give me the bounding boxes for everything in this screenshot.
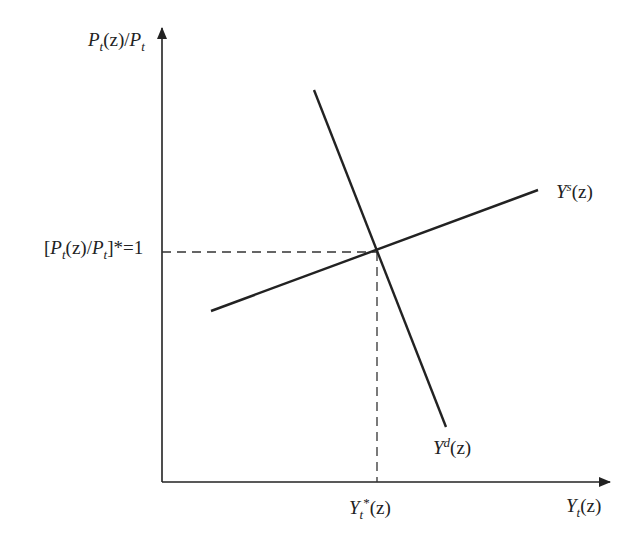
- eq-qty-rest: (z): [370, 497, 391, 518]
- y-label-base2: P: [130, 29, 142, 50]
- y-axis-label: Pt(z)/Pt: [88, 30, 145, 53]
- x-label-rest: (z): [580, 495, 601, 516]
- equilibrium-price-label: [Pt(z)/Pt]*=1: [44, 238, 143, 261]
- demand-curve: [314, 90, 446, 427]
- demand-label-base: Y: [433, 437, 444, 458]
- supply-curve: [211, 190, 538, 311]
- eq-price-close: ]*=1: [107, 237, 143, 258]
- supply-label: Ys(z): [556, 180, 593, 201]
- eq-price-base2: P: [92, 237, 104, 258]
- equilibrium-quantity-label: Yt*(z): [349, 496, 391, 521]
- supply-label-rest: (z): [572, 181, 593, 202]
- x-axis-label: Yt(z): [566, 496, 601, 519]
- eq-qty-base: Y: [349, 497, 360, 518]
- demand-label-rest: (z): [450, 437, 471, 458]
- y-label-sub2: t: [141, 39, 145, 54]
- y-label-mid: (z)/: [103, 29, 129, 50]
- eq-price-mid: (z)/: [66, 237, 92, 258]
- diagram-canvas: [0, 0, 638, 550]
- demand-label: Yd(z): [433, 436, 471, 457]
- x-label-base: Y: [566, 495, 577, 516]
- eq-price-base: P: [50, 237, 62, 258]
- supply-label-base: Y: [556, 181, 567, 202]
- y-label-base: P: [88, 29, 100, 50]
